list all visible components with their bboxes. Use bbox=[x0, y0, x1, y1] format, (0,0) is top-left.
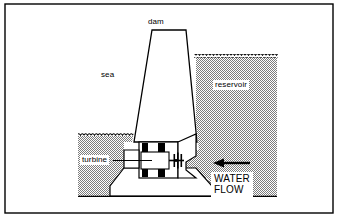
label-sea: sea bbox=[101, 71, 114, 79]
reservoir-water-surface bbox=[194, 54, 278, 58]
label-reservoir: reservoir bbox=[213, 80, 249, 90]
machine-pad bbox=[158, 143, 165, 152]
label-water-flow-line1: WATER bbox=[214, 173, 250, 184]
machine-pad bbox=[142, 143, 148, 152]
label-turbine: turbine bbox=[80, 155, 109, 165]
sea-water-surface bbox=[78, 133, 140, 137]
label-water-flow-line2: FLOW bbox=[214, 184, 244, 195]
label-water-flow: WATERFLOW bbox=[211, 172, 253, 197]
label-dam: dam bbox=[148, 18, 164, 26]
figure-root: dam sea reservoir turbine WATERFLOW bbox=[0, 0, 338, 222]
dam-diagram bbox=[0, 0, 338, 222]
